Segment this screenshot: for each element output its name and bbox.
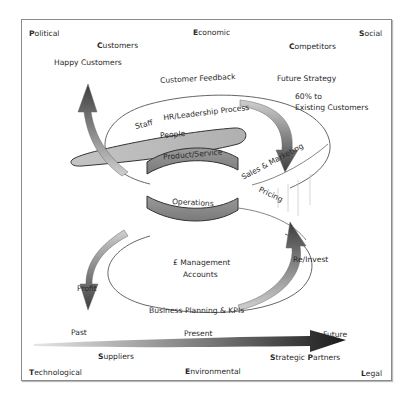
management-accounts-line2: Accounts xyxy=(183,270,218,279)
timeline-future-label: Future xyxy=(323,330,347,339)
pestle-social: Social xyxy=(359,29,382,38)
stakeholder-customers: Customers xyxy=(97,41,138,50)
management-accounts-line1: £ Management xyxy=(173,258,230,267)
reinvest-label: Re/Invest xyxy=(293,255,328,264)
happy-customers-label: Happy Customers xyxy=(54,58,122,67)
profit-arrow xyxy=(80,230,128,310)
pestle-technological: Technological xyxy=(29,368,82,377)
business-planning-label: Business Planning & KPIs xyxy=(149,306,244,315)
stakeholder-suppliers: Suppliers xyxy=(98,352,134,361)
pestle-economic: Economic xyxy=(193,28,230,37)
pestle-legal: Legal xyxy=(361,369,382,378)
future-strategy-label: Future Strategy xyxy=(277,74,336,83)
stakeholder-competitors: Competitors xyxy=(289,42,336,51)
pestle-environmental: Environmental xyxy=(185,367,241,376)
pestle-political: Political xyxy=(29,29,59,38)
reinvest-arrow xyxy=(238,222,306,310)
existing-customers-line2: Existing Customers xyxy=(295,103,368,112)
timeline-present-label: Present xyxy=(184,329,213,338)
existing-customers-line1: 60% to xyxy=(295,92,322,101)
stakeholder-strategic-partners: Strategic Partners xyxy=(270,353,340,362)
profit-label: Profit xyxy=(77,284,97,293)
timeline-past-label: Past xyxy=(71,328,87,337)
